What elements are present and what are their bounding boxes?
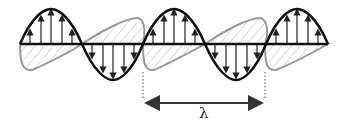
wavelength-label: λ <box>199 106 209 121</box>
em-wave-diagram <box>0 0 342 126</box>
